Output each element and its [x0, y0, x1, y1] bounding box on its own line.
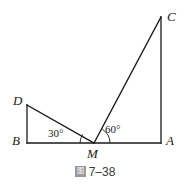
- vertex-label-M: M: [87, 147, 98, 160]
- angle-label-30: 30°: [48, 128, 63, 139]
- geometry-drawing: [0, 0, 190, 191]
- geometry-figure: C D B A M 30° 60° 图7–38: [0, 0, 190, 191]
- figure-caption-glyph-icon: 图: [75, 166, 86, 177]
- figure-caption: 图7–38: [0, 166, 190, 178]
- vertex-label-A: A: [166, 134, 174, 147]
- vertex-label-B: B: [12, 134, 20, 147]
- vertex-label-C: C: [167, 10, 176, 23]
- vertex-label-D: D: [13, 94, 22, 107]
- figure-caption-text: 7–38: [89, 166, 116, 178]
- angle-label-60: 60°: [105, 124, 120, 135]
